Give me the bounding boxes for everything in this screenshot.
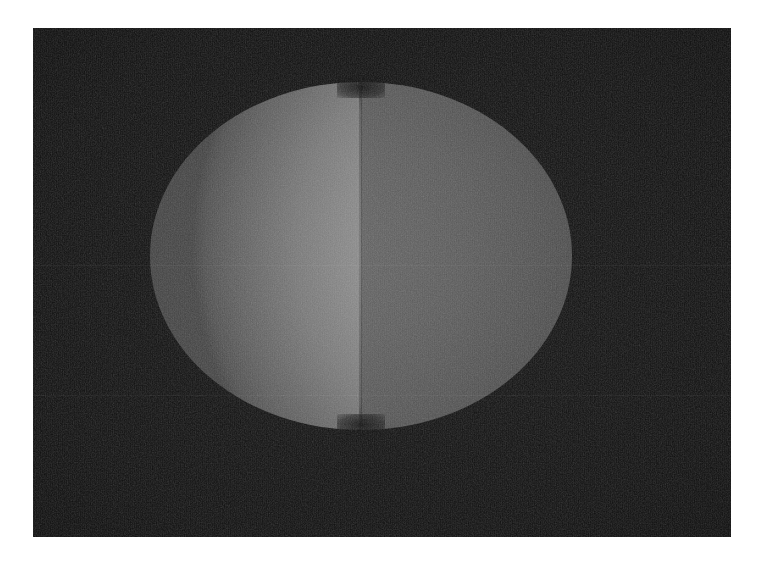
rendered-scene [33,28,731,537]
dark-photographic-plate [33,28,731,537]
right-hemisphere [361,82,573,430]
right-hemisphere-shading [361,82,572,430]
left-hemisphere-shading [150,82,361,430]
left-hemisphere [150,82,361,430]
page-canvas [0,0,759,566]
